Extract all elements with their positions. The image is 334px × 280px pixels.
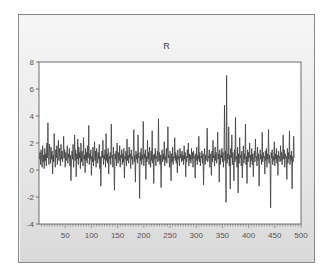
x-tick-label: 200 (137, 231, 151, 240)
x-tick-label: 500 (294, 231, 308, 240)
x-tick-label: 450 (268, 231, 282, 240)
x-tick-label: 350 (216, 231, 230, 240)
y-tick-label: 8 (30, 58, 35, 67)
line-chart: -4-202468 50100150200250300350400450500 (0, 0, 334, 280)
x-tick-label: 300 (190, 231, 204, 240)
y-tick-label: 0 (30, 166, 35, 175)
y-axis: -4-202468 (27, 58, 39, 229)
y-tick-label: 2 (30, 139, 35, 148)
x-tick-label: 250 (163, 231, 177, 240)
x-tick-label: 150 (111, 231, 125, 240)
x-tick-label: 100 (85, 231, 99, 240)
y-tick-label: 4 (30, 112, 35, 121)
x-tick-label: 400 (242, 231, 256, 240)
x-tick-label: 50 (61, 231, 70, 240)
y-tick-label: 6 (30, 85, 35, 94)
x-axis: 50100150200250300350400450500 (42, 224, 309, 240)
y-tick-label: -2 (27, 193, 35, 202)
y-tick-label: -4 (27, 220, 35, 229)
